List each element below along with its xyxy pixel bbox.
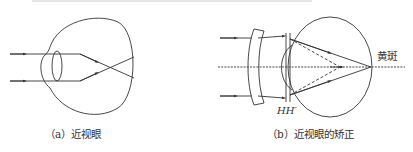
myopia-diagram: （a）近视眼 黄斑 HH′ （b）近视眼的矫正 xyxy=(0,0,413,152)
cutoff-text xyxy=(32,0,312,2)
caption-a: （a）近视眼 xyxy=(45,128,102,140)
principal-planes-label: HH′ xyxy=(276,105,297,116)
eyeball-outline xyxy=(41,18,133,114)
lens xyxy=(52,51,62,81)
macula-label: 黄斑 xyxy=(377,50,398,62)
figure-a-myopic-eye xyxy=(10,18,134,114)
caption-b: （b）近视眼的矫正 xyxy=(267,128,354,140)
figure-b-corrected-eye xyxy=(218,17,405,117)
